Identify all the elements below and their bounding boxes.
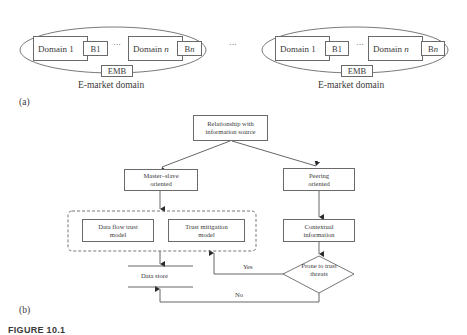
relationship-label: Relationship with information source — [200, 120, 262, 136]
no-edge-label: No — [235, 291, 243, 298]
master-slave-node: Master–slave oriented — [124, 169, 198, 191]
panel-b-label: (b) — [19, 305, 30, 315]
decision-label: Prone to trust threats — [299, 262, 339, 277]
domain-n-box: Domain n — [368, 36, 423, 61]
bn-label: Bn — [185, 45, 195, 53]
b1-box: B1 — [83, 41, 108, 56]
yes-edge-label: Yes — [243, 263, 253, 270]
figure-caption: FIGURE 10.1 — [8, 325, 65, 335]
emb-label: EMB — [108, 67, 126, 75]
trust-mitigation-node: Trust mitigation model — [168, 219, 245, 242]
panel-a-label: (a) — [19, 97, 30, 107]
peering-node: Peering oriented — [283, 168, 355, 191]
data-flow-trust-label: Data flow trust model — [90, 223, 146, 239]
domains-separator: ··· — [229, 40, 237, 49]
domain-1-box: Domain 1 — [275, 36, 330, 61]
relationship-node: Relationship with information source — [193, 115, 268, 141]
domain-n-box: Domain n — [128, 36, 183, 61]
contextual-info-label: Contextual information — [294, 223, 344, 239]
e-market-caption: E-market domain — [78, 80, 144, 90]
emb-label: EMB — [348, 67, 366, 75]
edge-root-master-slave — [162, 141, 230, 167]
domain-1-box: Domain 1 — [33, 36, 88, 61]
e-market-caption: E-market domain — [318, 80, 384, 90]
bn-box: Bn — [421, 41, 445, 56]
emb-box: EMB — [101, 65, 133, 77]
edge-root-peering — [232, 141, 316, 166]
domain-1-label: Domain 1 — [38, 45, 74, 53]
domain-n-label: Domain n — [373, 45, 409, 53]
data-flow-trust-node: Data flow trust model — [82, 219, 154, 242]
peering-label: Peering oriented — [299, 172, 339, 188]
master-slave-label: Master–slave oriented — [136, 172, 186, 188]
domain-1-label: Domain 1 — [280, 45, 316, 53]
domain-n-label: Domain n — [133, 45, 169, 53]
domain-ellipsis: ··· — [356, 40, 364, 49]
emb-box: EMB — [341, 65, 373, 77]
contextual-info-node: Contextual information — [283, 219, 355, 242]
b1-label: B1 — [91, 45, 101, 53]
bn-box: Bn — [177, 41, 202, 56]
data-store-label: Data store — [141, 272, 168, 279]
trust-mitigation-label: Trust mitigation model — [177, 223, 237, 239]
domain-ellipsis: ··· — [113, 40, 121, 49]
b1-label: B1 — [332, 45, 342, 53]
bn-label: Bn — [428, 45, 438, 53]
b1-box: B1 — [325, 41, 349, 56]
